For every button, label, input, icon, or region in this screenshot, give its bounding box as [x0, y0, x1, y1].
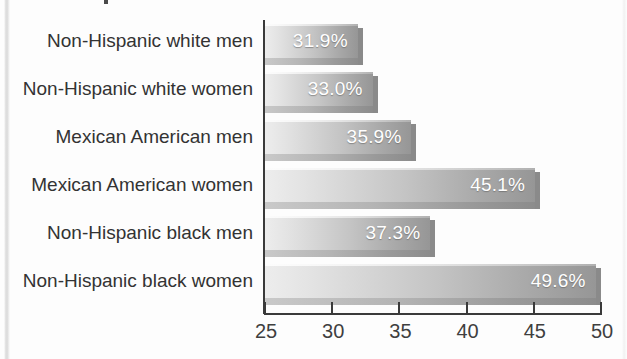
category-label: Non-Hispanic white women: [23, 79, 253, 98]
x-axis-tick: [600, 302, 602, 314]
x-axis-tick-label: 45: [513, 320, 557, 343]
x-axis-tick: [398, 302, 400, 314]
bar-value-label: 33.0%: [308, 78, 363, 100]
bar-fill: 35.9%: [265, 120, 411, 154]
x-axis-tick: [533, 302, 535, 314]
category-label: Non-Hispanic black women: [23, 271, 253, 290]
bar[interactable]: 35.9%: [265, 120, 411, 154]
category-label: Non-Hispanic black men: [47, 223, 253, 242]
bar-row: Mexican American women45.1%: [0, 168, 627, 202]
bar-fill: 49.6%: [265, 264, 596, 298]
bar-bottom-shadow: [265, 154, 411, 161]
category-label: Mexican American men: [56, 127, 253, 146]
bar-row: Non-Hispanic black men37.3%: [0, 216, 627, 250]
bar-value-label: 31.9%: [293, 30, 348, 52]
bar[interactable]: 31.9%: [265, 24, 358, 58]
bar[interactable]: 33.0%: [265, 72, 373, 106]
bar-chart-plot: Non-Hispanic white men31.9%Non-Hispanic …: [0, 0, 627, 359]
bar-row: Non-Hispanic black women49.6%: [0, 264, 627, 298]
bar-fill: 45.1%: [265, 168, 535, 202]
chart-page: Non-Hispanic white men31.9%Non-Hispanic …: [0, 0, 627, 359]
bar-row: Mexican American men35.9%: [0, 120, 627, 154]
bar-fill: 31.9%: [265, 24, 358, 58]
x-axis-tick-label: 35: [378, 320, 422, 343]
x-axis-tick-label: 30: [311, 320, 355, 343]
bar-bottom-shadow: [265, 58, 358, 65]
bar-side-face: [411, 124, 416, 161]
x-axis-tick-label: 40: [446, 320, 490, 343]
bar[interactable]: 49.6%: [265, 264, 596, 298]
bar-side-face: [596, 268, 601, 305]
bar-value-label: 35.9%: [347, 126, 402, 148]
bar-side-face: [373, 76, 378, 113]
bar-row: Non-Hispanic white women33.0%: [0, 72, 627, 106]
bar-bottom-shadow: [265, 298, 596, 305]
bar[interactable]: 45.1%: [265, 168, 535, 202]
x-axis-line: [264, 313, 602, 315]
bar-value-label: 49.6%: [531, 270, 586, 292]
x-axis-tick: [264, 302, 266, 314]
bar-fill: 33.0%: [265, 72, 373, 106]
category-label: Non-Hispanic white men: [47, 31, 253, 50]
bar-value-label: 37.3%: [365, 222, 420, 244]
bar-side-face: [430, 220, 435, 257]
bar-side-face: [535, 172, 540, 209]
category-label: Mexican American women: [31, 175, 253, 194]
bar-value-label: 45.1%: [470, 174, 525, 196]
x-axis-tick: [466, 302, 468, 314]
bar-side-face: [358, 28, 363, 65]
x-axis-tick: [331, 302, 333, 314]
bar-fill: 37.3%: [265, 216, 430, 250]
bar-bottom-shadow: [265, 202, 535, 209]
x-axis-tick-label: 25: [244, 320, 288, 343]
x-axis-tick-label: 50: [580, 320, 624, 343]
bar-bottom-shadow: [265, 106, 373, 113]
bar-row: Non-Hispanic white men31.9%: [0, 24, 627, 58]
bar-bottom-shadow: [265, 250, 430, 257]
bar[interactable]: 37.3%: [265, 216, 430, 250]
